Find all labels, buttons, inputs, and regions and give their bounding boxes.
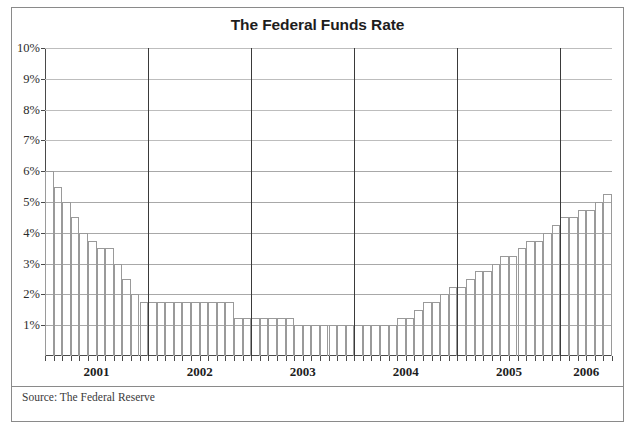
year-separator	[148, 48, 149, 356]
year-separator	[560, 48, 561, 356]
y-axis-tick-label: 6%	[23, 164, 40, 179]
x-axis-tick-mark	[251, 356, 252, 361]
x-axis-tick-mark	[440, 356, 441, 361]
y-axis-tick-label: 10%	[17, 41, 40, 56]
bar	[329, 325, 338, 356]
year-separator	[251, 48, 252, 356]
bar	[586, 210, 595, 356]
x-axis-tick-mark	[449, 356, 450, 361]
x-axis-tick-mark	[303, 356, 304, 361]
bar	[526, 241, 535, 357]
x-axis-tick-mark	[225, 356, 226, 361]
x-axis-tick-mark	[586, 356, 587, 361]
x-axis-tick-mark	[114, 356, 115, 361]
x-axis-tick-mark	[526, 356, 527, 361]
chart-title: The Federal Funds Rate	[12, 16, 623, 34]
bar	[389, 325, 398, 356]
bar	[157, 302, 166, 356]
x-axis-tick-mark	[182, 356, 183, 361]
year-separator	[457, 48, 458, 356]
x-axis-tick-mark	[535, 356, 536, 361]
bar	[595, 202, 604, 356]
bar	[311, 325, 320, 356]
bar	[560, 217, 569, 356]
bar	[414, 310, 423, 356]
bar	[79, 233, 88, 356]
x-axis-tick-mark	[191, 356, 192, 361]
bar	[354, 325, 363, 356]
bar	[466, 279, 475, 356]
x-axis-tick-mark	[363, 356, 364, 361]
x-axis-tick-mark	[294, 356, 295, 361]
y-axis-tick-label: 4%	[23, 226, 40, 241]
x-axis-tick-mark	[500, 356, 501, 361]
bar	[182, 302, 191, 356]
bar	[174, 302, 183, 356]
bar	[54, 187, 63, 356]
bar	[105, 248, 114, 356]
bar	[363, 325, 372, 356]
x-axis-tick-mark	[268, 356, 269, 361]
x-axis-tick-mark	[311, 356, 312, 361]
bar	[432, 302, 441, 356]
x-axis-tick-mark	[483, 356, 484, 361]
bar	[286, 318, 295, 357]
x-axis-year-label: 2004	[393, 364, 419, 380]
x-axis-tick-mark	[457, 356, 458, 361]
bar	[320, 325, 329, 356]
bar	[543, 233, 552, 356]
bar	[243, 318, 252, 357]
bar	[371, 325, 380, 356]
y-axis-tick-label: 8%	[23, 103, 40, 118]
scan-artifact-text: · · ·· · ·	[14, 0, 53, 3]
x-axis-tick-mark	[475, 356, 476, 361]
x-axis-year-label: 2006	[573, 364, 599, 380]
y-axis-tick-label: 9%	[23, 72, 40, 87]
x-axis-tick-mark	[612, 356, 613, 361]
bar	[114, 264, 123, 356]
x-axis-tick-mark	[62, 356, 63, 361]
bar	[483, 271, 492, 356]
bar	[440, 294, 449, 356]
bar	[260, 318, 269, 357]
bars-group	[45, 48, 612, 356]
x-axis-tick-mark	[492, 356, 493, 361]
x-axis-tick-mark	[208, 356, 209, 361]
x-axis-tick-mark	[552, 356, 553, 361]
bar	[397, 318, 406, 357]
x-axis-tick-mark	[406, 356, 407, 361]
bar	[148, 302, 157, 356]
x-axis-tick-mark	[578, 356, 579, 361]
source-note: Source: The Federal Reserve	[22, 391, 155, 403]
bar	[131, 294, 140, 356]
y-axis-tick-label: 1%	[23, 318, 40, 333]
bar	[475, 271, 484, 356]
x-axis-tick-mark	[45, 356, 46, 361]
x-axis-tick-mark	[595, 356, 596, 361]
x-axis-tick-mark	[217, 356, 218, 361]
x-axis-tick-mark	[337, 356, 338, 361]
x-axis-tick-mark	[71, 356, 72, 361]
x-axis-tick-mark	[414, 356, 415, 361]
x-axis-tick-mark	[54, 356, 55, 361]
x-axis-tick-mark	[277, 356, 278, 361]
x-axis-year-label: 2001	[84, 364, 110, 380]
x-axis-tick-mark	[105, 356, 106, 361]
x-axis-year-label: 2002	[187, 364, 213, 380]
x-axis-tick-mark	[234, 356, 235, 361]
x-axis-tick-mark	[423, 356, 424, 361]
bar	[208, 302, 217, 356]
bar	[71, 217, 80, 356]
year-separator	[354, 48, 355, 356]
x-axis-tick-mark	[346, 356, 347, 361]
scan-artifact-strip: · · ·· · ·	[0, 0, 635, 7]
bar	[88, 241, 97, 357]
x-axis-tick-mark	[329, 356, 330, 361]
bar	[200, 302, 209, 356]
bar	[191, 302, 200, 356]
x-axis-tick-mark	[200, 356, 201, 361]
x-axis-tick-mark	[131, 356, 132, 361]
bar	[535, 241, 544, 357]
x-axis-tick-mark	[157, 356, 158, 361]
bar	[62, 202, 71, 356]
